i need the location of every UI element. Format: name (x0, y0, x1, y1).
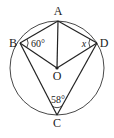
point-label-o: O (53, 69, 62, 83)
point-label-a: A (54, 4, 63, 18)
angle-arc-c (52, 106, 62, 108)
segment-ao (57, 21, 58, 68)
segment-ad (58, 21, 97, 43)
angle-arc-d (89, 39, 90, 47)
angle-arc-b (27, 39, 28, 47)
point-label-b: B (9, 36, 17, 50)
point-label-c: C (53, 116, 61, 130)
point-label-d: D (100, 36, 109, 50)
segment-do (57, 43, 97, 68)
geometry-diagram: A B D O C 60° x 58° (0, 0, 114, 138)
angle-label-b: 60° (31, 38, 45, 49)
angle-label-c: 58° (51, 94, 65, 105)
angle-label-d: x (81, 38, 87, 49)
